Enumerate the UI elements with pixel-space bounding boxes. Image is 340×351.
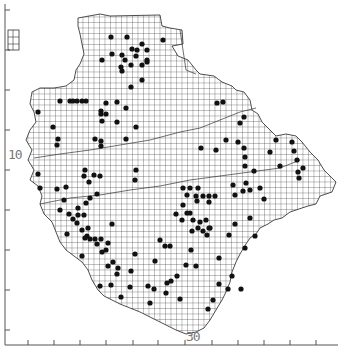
occurrence-dot — [237, 120, 242, 125]
occurrence-dot — [242, 163, 247, 168]
occurrence-dot — [206, 193, 211, 198]
occurrence-dot — [35, 171, 40, 176]
occurrence-dot — [122, 57, 127, 62]
occurrence-dot — [213, 147, 218, 152]
occurrence-dot — [204, 232, 209, 237]
occurrence-dot — [232, 221, 237, 226]
occurrence-dot — [79, 227, 84, 232]
legend-inset — [8, 30, 19, 50]
occurrence-dot — [214, 100, 219, 105]
occurrence-dot — [295, 169, 300, 174]
occurrence-dot — [37, 185, 42, 190]
occurrence-dot — [50, 124, 55, 129]
occurrence-dot — [168, 278, 173, 283]
occurrence-dot — [129, 46, 134, 51]
occurrence-dot — [212, 193, 217, 198]
occurrence-dot — [193, 193, 198, 198]
occurrence-dot — [294, 157, 299, 162]
occurrence-dot — [225, 286, 230, 291]
occurrence-dot — [139, 41, 144, 46]
occurrence-dot — [94, 241, 99, 246]
grid-region — [0, 0, 340, 351]
occurrence-dot — [103, 100, 108, 105]
occurrence-dot — [247, 187, 252, 192]
occurrence-dot — [124, 34, 129, 39]
occurrence-dot — [242, 154, 247, 159]
occurrence-dot — [132, 251, 137, 256]
occurrence-dot — [152, 258, 157, 263]
occurrence-dot — [66, 211, 71, 216]
occurrence-dot — [109, 51, 114, 56]
occurrence-dot — [139, 62, 144, 67]
occurrence-dot — [242, 245, 247, 250]
occurrence-dot — [134, 47, 139, 52]
occurrence-dot — [174, 273, 179, 278]
occurrence-dot — [194, 198, 199, 203]
occurrence-dot — [230, 182, 235, 187]
occurrence-dot — [82, 167, 87, 172]
occurrence-dot — [114, 99, 119, 104]
occurrence-dot — [167, 243, 172, 248]
occurrence-dot — [119, 68, 124, 73]
occurrence-dot — [200, 228, 205, 233]
occurrence-dot — [247, 215, 252, 220]
occurrence-dot — [200, 193, 205, 198]
occurrence-dot — [291, 148, 296, 153]
occurrence-dot — [57, 98, 62, 103]
occurrence-dot — [195, 185, 200, 190]
occurrence-dot — [144, 47, 149, 52]
occurrence-dot — [75, 205, 80, 210]
occurrence-dot — [147, 300, 152, 305]
occurrence-dot — [188, 247, 193, 252]
occurrence-dot — [261, 196, 266, 201]
occurrence-dot — [57, 207, 62, 212]
occurrence-dot — [300, 165, 305, 170]
occurrence-dot — [203, 217, 208, 222]
occurrence-dot — [85, 225, 90, 230]
occurrence-dot — [296, 175, 301, 180]
occurrence-dot — [241, 145, 246, 150]
occurrence-dot — [54, 142, 59, 147]
occurrence-dot — [133, 167, 138, 172]
occurrence-dot — [128, 62, 133, 67]
occurrence-dot — [133, 124, 138, 129]
occurrence-dot — [74, 98, 79, 103]
x-axis-label: 30 — [186, 329, 200, 344]
occurrence-dot — [123, 136, 128, 141]
occurrence-dot — [108, 282, 113, 287]
occurrence-dot — [145, 283, 150, 288]
occurrence-dot — [133, 53, 138, 58]
occurrence-dot — [198, 145, 203, 150]
occurrence-dot — [98, 143, 103, 148]
occurrence-dot — [86, 179, 91, 184]
occurrence-dot — [173, 211, 178, 216]
occurrence-dot — [99, 118, 104, 123]
occurrence-dot — [223, 137, 228, 142]
occurrence-dot — [241, 114, 246, 119]
occurrence-dot — [128, 84, 133, 89]
occurrence-dot — [151, 286, 156, 291]
occurrence-dot — [243, 180, 248, 185]
occurrence-dot — [238, 286, 243, 291]
occurrence-dot — [183, 262, 188, 267]
occurrence-dot — [92, 236, 97, 241]
occurrence-dot — [114, 119, 119, 124]
occurrence-dot — [180, 185, 185, 190]
occurrence-dot — [180, 202, 185, 207]
occurrence-dot — [81, 212, 86, 217]
occurrence-dot — [187, 210, 192, 215]
occurrence-dot — [119, 52, 124, 57]
occurrence-dot — [189, 228, 194, 233]
occurrence-dot — [177, 296, 182, 301]
occurrence-dot — [195, 225, 200, 230]
occurrence-dot — [251, 168, 256, 173]
occurrence-dot — [163, 290, 168, 295]
occurrence-dot — [94, 191, 99, 196]
occurrence-dot — [206, 225, 211, 230]
occurrence-dot — [216, 281, 221, 286]
occurrence-dot — [257, 185, 262, 190]
occurrence-dot — [127, 284, 132, 289]
occurrence-dot — [118, 294, 123, 299]
occurrence-dot — [92, 136, 97, 141]
occurrence-dot — [74, 220, 79, 225]
